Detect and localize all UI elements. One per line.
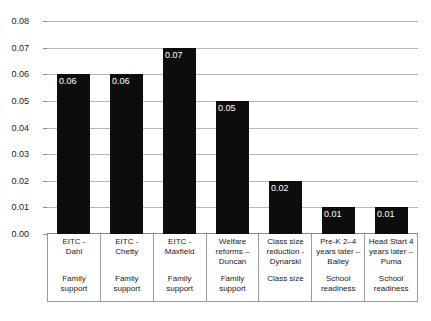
bar[interactable]: 0.07 bbox=[163, 48, 196, 234]
bars-layer: 0.060.060.070.050.020.010.01 bbox=[47, 21, 418, 234]
bar[interactable]: 0.02 bbox=[269, 181, 302, 234]
intervention-group-text: Familysupport bbox=[165, 274, 194, 294]
intervention-group-cell: Schoolreadiness bbox=[365, 274, 417, 301]
category-column: Class sizereduction -DynarskiClass size bbox=[259, 234, 312, 301]
y-axis-tick-label: 0.03 bbox=[0, 150, 29, 159]
category-column: EITC -ChettyFamilysupport bbox=[101, 234, 154, 301]
intervention-group-text: Class size bbox=[266, 274, 304, 284]
study-name-text: Pre-K 2–4years later –Bailey bbox=[315, 237, 361, 267]
intervention-group-cell: Familysupport bbox=[48, 274, 100, 301]
y-axis-tick-label: 0.04 bbox=[0, 124, 29, 133]
bar-slot: 0.01 bbox=[365, 21, 418, 234]
bar-value-label: 0.02 bbox=[271, 183, 289, 193]
study-name-cell: Pre-K 2–4years later –Bailey bbox=[312, 234, 364, 274]
bar-slot: 0.06 bbox=[100, 21, 153, 234]
bar-value-label: 0.05 bbox=[218, 103, 236, 113]
intervention-group-text: Familysupport bbox=[60, 274, 89, 294]
intervention-group-text: Schoolreadiness bbox=[373, 274, 410, 294]
bar-slot: 0.05 bbox=[206, 21, 259, 234]
study-name-cell: Welfarereforms –Duncan bbox=[207, 234, 259, 274]
y-axis-tick-label: 0.02 bbox=[0, 177, 29, 186]
study-name-cell: Head Start 4years later –Puma bbox=[365, 234, 417, 274]
category-column: Head Start 4years later –PumaSchoolreadi… bbox=[365, 234, 417, 301]
intervention-group-cell: Familysupport bbox=[207, 274, 259, 301]
category-column: EITC -DahlFamilysupport bbox=[48, 234, 101, 301]
study-name-cell: EITC -Dahl bbox=[48, 234, 100, 274]
intervention-group-text: Familysupport bbox=[112, 274, 141, 294]
intervention-group-cell: Familysupport bbox=[154, 274, 206, 301]
study-name-cell: Class sizereduction -Dynarski bbox=[259, 234, 311, 274]
category-label-table: EITC -DahlFamilysupportEITC -ChettyFamil… bbox=[47, 234, 418, 302]
intervention-group-cell: Class size bbox=[259, 274, 311, 301]
y-axis-tick-label: 0.01 bbox=[0, 203, 29, 212]
bar-slot: 0.02 bbox=[259, 21, 312, 234]
bar-value-label: 0.01 bbox=[324, 209, 342, 219]
bar[interactable]: 0.06 bbox=[57, 74, 90, 234]
y-axis-tick-label: 0.07 bbox=[0, 44, 29, 53]
bar[interactable]: 0.06 bbox=[110, 74, 143, 234]
category-column: Welfarereforms –DuncanFamilysupport bbox=[207, 234, 260, 301]
study-name-text: EITC -Maxfield bbox=[164, 237, 196, 257]
y-axis-tick-label: 0.08 bbox=[0, 17, 29, 26]
bar-value-label: 0.01 bbox=[377, 209, 395, 219]
intervention-group-text: Schoolreadiness bbox=[320, 274, 357, 294]
category-column: Pre-K 2–4years later –BaileySchoolreadin… bbox=[312, 234, 365, 301]
study-name-text: EITC -Dahl bbox=[61, 237, 86, 257]
bar-value-label: 0.06 bbox=[112, 76, 130, 86]
study-name-cell: EITC -Maxfield bbox=[154, 234, 206, 274]
bar-chart-figure: 0.080.070.060.050.040.030.020.010.00 0.0… bbox=[0, 0, 431, 321]
study-name-text: Welfarereforms –Duncan bbox=[215, 237, 251, 267]
study-name-text: Head Start 4years later –Puma bbox=[368, 237, 415, 267]
intervention-group-text: Familysupport bbox=[218, 274, 247, 294]
y-axis-tick-label: 0.06 bbox=[0, 70, 29, 79]
bar[interactable]: 0.01 bbox=[322, 207, 355, 234]
y-axis-tick-label: 0.05 bbox=[0, 97, 29, 106]
study-name-text: Class sizereduction -Dynarski bbox=[265, 237, 305, 267]
bar[interactable]: 0.01 bbox=[375, 207, 408, 234]
y-axis-tick-label: 0.00 bbox=[0, 230, 29, 239]
study-name-text: EITC -Chetty bbox=[114, 237, 139, 257]
bar-value-label: 0.07 bbox=[165, 50, 183, 60]
category-column: EITC -MaxfieldFamilysupport bbox=[154, 234, 207, 301]
plot-area: 0.080.070.060.050.040.030.020.010.00 0.0… bbox=[47, 21, 418, 234]
bar-slot: 0.01 bbox=[312, 21, 365, 234]
bar-slot: 0.07 bbox=[153, 21, 206, 234]
bar-value-label: 0.06 bbox=[59, 76, 77, 86]
intervention-group-cell: Schoolreadiness bbox=[312, 274, 364, 301]
study-name-cell: EITC -Chetty bbox=[101, 234, 153, 274]
bar[interactable]: 0.05 bbox=[216, 101, 249, 234]
intervention-group-cell: Familysupport bbox=[101, 274, 153, 301]
bar-slot: 0.06 bbox=[47, 21, 100, 234]
